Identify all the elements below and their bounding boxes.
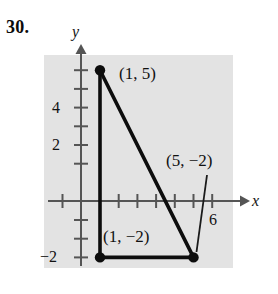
y-axis (76, 44, 87, 266)
vertex-point-top-left (95, 65, 105, 75)
x-axis-label: x (252, 193, 259, 209)
point-label-top-left: (1, 5) (119, 65, 156, 82)
point-label-bottom-left: (1, −2) (103, 228, 149, 245)
y-tick-label-negative-2: −2 (40, 249, 57, 265)
vertex-point-bottom-left (95, 252, 105, 262)
y-axis-label: y (72, 24, 79, 40)
leader-line-bottom-right (197, 175, 208, 252)
y-tick-label-4: 4 (52, 100, 60, 116)
figure-page: 30. (0, 0, 278, 294)
point-label-bottom-right: (5, −2) (166, 152, 212, 169)
x-axis (48, 196, 250, 207)
y-tick-label-2: 2 (52, 137, 60, 153)
x-tick-label-6: 6 (209, 212, 217, 228)
vertex-point-bottom-right (188, 252, 198, 262)
